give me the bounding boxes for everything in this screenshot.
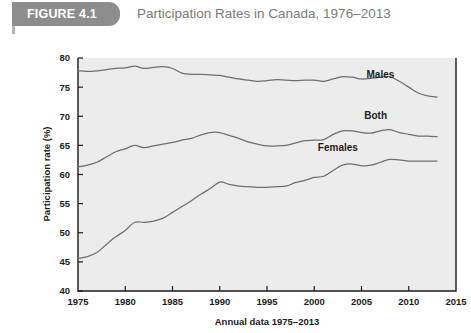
y-tick-label: 50 (59, 227, 70, 238)
figure-header: FIGURE 4.1 Participation Rates in Canada… (0, 0, 471, 29)
x-tick-label: 2015 (445, 296, 467, 307)
x-tick-label: 1990 (209, 296, 230, 307)
x-axis-title: Annual data 1975–2013 (215, 316, 320, 327)
x-tick-label: 1975 (67, 296, 89, 307)
plot-area-background (78, 58, 456, 291)
x-tick-label: 2010 (398, 296, 419, 307)
series-label-both: Both (364, 110, 387, 121)
y-tick-label: 70 (59, 111, 70, 122)
figure-number-tab: FIGURE 4.1 (12, 2, 120, 26)
series-label-males: Males (367, 69, 395, 80)
y-tick-label: 65 (59, 140, 70, 151)
y-tick-label: 55 (59, 198, 70, 209)
x-tick-label: 2000 (304, 296, 325, 307)
x-tick-label: 2005 (351, 296, 373, 307)
y-tick-label: 40 (59, 285, 70, 296)
y-tick-label: 75 (59, 82, 70, 93)
y-tick-label: 45 (59, 256, 70, 267)
figure-number-label: FIGURE 4.1 (12, 2, 112, 26)
figure-title: Participation Rates in Canada, 1976–2013 (137, 3, 391, 25)
series-label-females: Females (318, 142, 358, 153)
y-tick-label: 60 (59, 169, 70, 180)
y-tick-label: 80 (59, 52, 70, 63)
y-axis-title: Participation rate (%) (41, 126, 52, 221)
chart-figure: 404550556065707580 197519801985199019952… (0, 29, 471, 333)
x-tick-label: 1995 (256, 296, 278, 307)
line-chart: 404550556065707580 197519801985199019952… (0, 29, 471, 333)
x-tick-label: 1985 (162, 296, 184, 307)
x-tick-label: 1980 (115, 296, 136, 307)
